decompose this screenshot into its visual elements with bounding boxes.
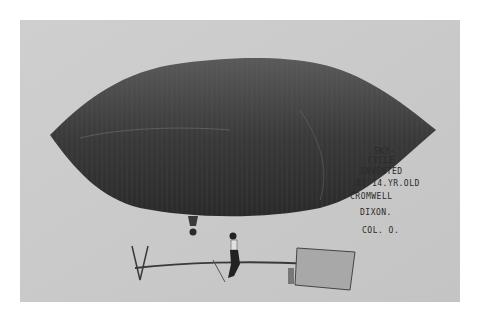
caption-line: COL. O. — [362, 227, 399, 235]
caption-line: BY 14.YR.OLD — [356, 180, 420, 188]
caption-line: DIXON. — [360, 209, 392, 217]
caption-line: SKY- — [374, 148, 395, 156]
valve-weight — [190, 229, 197, 236]
caption-line: CYCLE — [368, 157, 395, 165]
rudder-sail — [288, 248, 355, 290]
caption-line: INVENTED — [360, 168, 403, 176]
caption-line: CROMWELL — [350, 193, 393, 201]
